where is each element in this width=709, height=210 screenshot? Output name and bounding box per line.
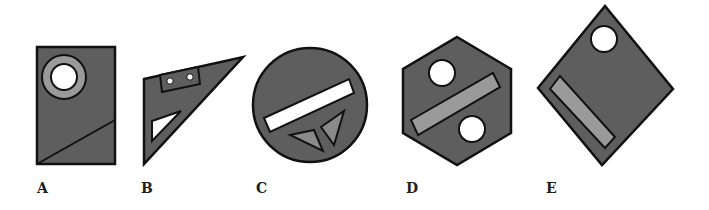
label-c: C bbox=[256, 180, 267, 196]
circle-top bbox=[429, 60, 455, 86]
dot-left bbox=[167, 78, 173, 84]
figure-canvas: A B C D E bbox=[0, 0, 709, 210]
figures-svg bbox=[0, 0, 709, 210]
label-e: E bbox=[546, 180, 557, 196]
figure-a[interactable] bbox=[37, 47, 115, 164]
figure-b[interactable] bbox=[144, 57, 243, 164]
label-a: A bbox=[37, 180, 48, 196]
figure-d[interactable] bbox=[403, 37, 511, 165]
label-d: D bbox=[406, 180, 418, 196]
label-b: B bbox=[141, 180, 153, 196]
ring-hole bbox=[51, 64, 77, 90]
circle-top bbox=[591, 26, 617, 52]
circle-bottom bbox=[459, 116, 485, 142]
figure-e[interactable] bbox=[538, 6, 673, 165]
dot-right bbox=[187, 74, 193, 80]
figure-c[interactable] bbox=[253, 48, 367, 162]
